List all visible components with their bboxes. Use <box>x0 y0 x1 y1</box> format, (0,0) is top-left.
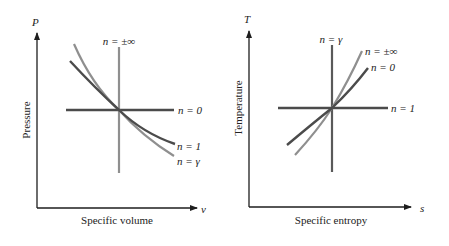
pv-label-n-infinity: n = ±∞ <box>103 35 135 47</box>
ts-y-axis-label: Temperature <box>232 80 244 136</box>
ts-label-n-gamma: n = γ <box>320 33 343 45</box>
polytropic-process-diagrams: P v Pressure Specific volume n = ±∞ n = … <box>0 0 449 246</box>
pv-curve-n-gamma <box>74 44 174 156</box>
pv-label-n-gamma: n = γ <box>177 155 200 167</box>
ts-label-n-infinity: n = ±∞ <box>365 45 397 57</box>
ts-curve-n-0 <box>287 68 368 145</box>
pv-x-axis-label: Specific volume <box>81 214 153 226</box>
pv-y-axis-symbol: P <box>31 16 39 28</box>
ts-label-n-1: n = 1 <box>391 102 415 114</box>
ts-label-n-0: n = 0 <box>371 61 395 73</box>
pv-diagram: P v Pressure Specific volume n = ±∞ n = … <box>20 16 206 226</box>
ts-x-axis-symbol: s <box>420 202 424 214</box>
pv-x-axis-symbol: v <box>201 203 206 215</box>
ts-x-axis-label: Specific entropy <box>295 214 368 226</box>
pv-label-n-0: n = 0 <box>178 104 202 116</box>
ts-y-axis-symbol: T <box>244 13 251 25</box>
ts-curve-n-infinity <box>295 51 362 155</box>
ts-diagram: T s Temperature Specific entropy n = γ n… <box>232 13 424 226</box>
pv-curve-n-1 <box>70 61 175 144</box>
pv-label-n-1: n = 1 <box>177 140 201 152</box>
pv-y-axis-label: Pressure <box>20 101 32 138</box>
